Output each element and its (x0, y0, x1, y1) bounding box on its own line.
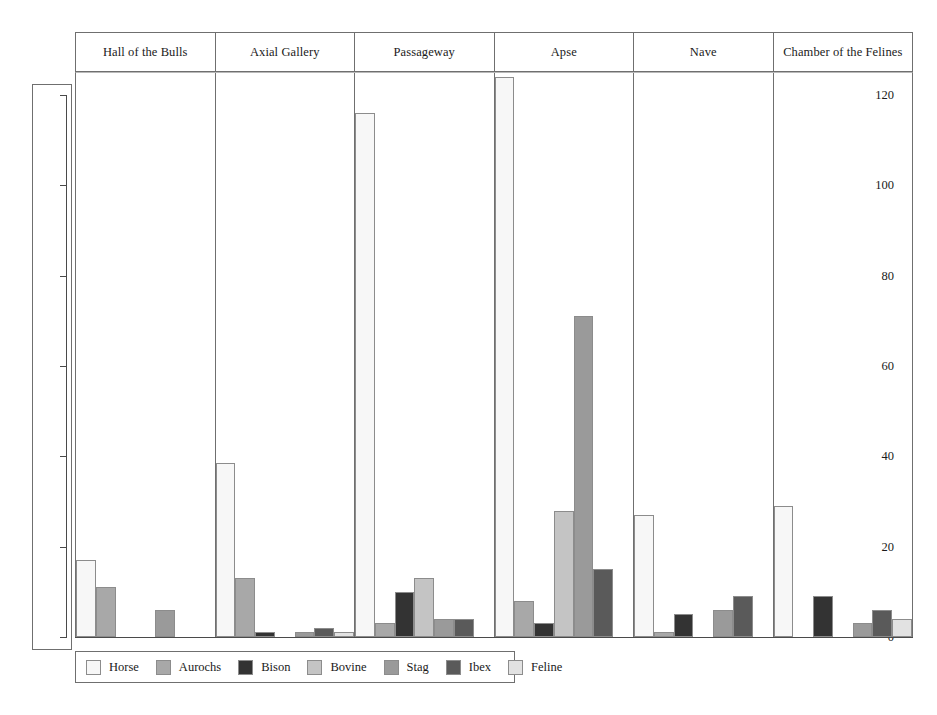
bar-aurochs[interactable] (514, 601, 534, 637)
panel-bars-1 (216, 96, 355, 637)
bar-feline[interactable] (892, 619, 912, 637)
legend-swatch-bovine (307, 660, 322, 675)
bar-slot-horse (76, 96, 96, 637)
panel-1 (216, 73, 356, 638)
bar-aurochs[interactable] (375, 623, 395, 637)
bar-slot-feline (474, 96, 494, 637)
legend-label-bison: Bison (261, 660, 290, 675)
bar-slot-ibex (454, 96, 474, 637)
y-axis-tick-100 (60, 185, 66, 186)
panel-header-1: Axial Gallery (216, 33, 356, 71)
bar-horse[interactable] (355, 113, 375, 637)
legend-item-stag[interactable]: Stag (384, 660, 429, 675)
bar-horse[interactable] (495, 77, 515, 637)
panel-bars-4 (634, 96, 773, 637)
bar-slot-bison (813, 96, 833, 637)
bar-slot-aurochs (96, 96, 116, 637)
legend-item-horse[interactable]: Horse (86, 660, 139, 675)
bar-ibex[interactable] (454, 619, 474, 637)
legend-swatch-ibex (446, 660, 461, 675)
legend-label-stag: Stag (407, 660, 429, 675)
panel-5 (774, 73, 913, 638)
bar-slot-horse (634, 96, 654, 637)
bar-slot-aurochs (375, 96, 395, 637)
bar-slot-stag (155, 96, 175, 637)
legend-swatch-aurochs (156, 660, 171, 675)
panel-4 (634, 73, 774, 638)
bar-slot-bovine (414, 96, 434, 637)
bar-slot-stag (574, 96, 594, 637)
legend-label-bovine: Bovine (330, 660, 366, 675)
bar-slot-feline (334, 96, 354, 637)
x-axis-baseline (75, 637, 913, 638)
bar-aurochs[interactable] (96, 587, 116, 637)
bar-stag[interactable] (853, 623, 873, 637)
legend-swatch-bison (238, 660, 253, 675)
legend-item-ibex[interactable]: Ibex (446, 660, 491, 675)
bar-slot-ibex (175, 96, 195, 637)
panel-header-2: Passageway (355, 33, 495, 71)
bar-ibex[interactable] (872, 610, 892, 637)
bar-stag[interactable] (574, 316, 594, 637)
bar-slot-aurochs (514, 96, 534, 637)
bar-bovine[interactable] (414, 578, 434, 637)
bar-bison[interactable] (534, 623, 554, 637)
bar-slot-bison (116, 96, 136, 637)
bar-ibex[interactable] (733, 596, 753, 637)
y-axis-tick-40 (60, 456, 66, 457)
bar-slot-bovine (275, 96, 295, 637)
legend-label-ibex: Ibex (469, 660, 491, 675)
bar-slot-horse (495, 96, 515, 637)
panel-bars-5 (774, 96, 913, 637)
bar-horse[interactable] (76, 560, 96, 637)
legend-item-feline[interactable]: Feline (508, 660, 562, 675)
panel-header-4: Nave (634, 33, 774, 71)
bar-aurochs[interactable] (235, 578, 255, 637)
bar-ibex[interactable] (593, 569, 613, 637)
bar-slot-ibex (314, 96, 334, 637)
bar-stag[interactable] (713, 610, 733, 637)
bar-slot-stag (713, 96, 733, 637)
legend-item-bovine[interactable]: Bovine (307, 660, 366, 675)
legend-swatch-stag (384, 660, 399, 675)
bar-slot-feline (753, 96, 773, 637)
bar-slot-horse (216, 96, 236, 637)
bar-slot-bison (674, 96, 694, 637)
bar-slot-aurochs (235, 96, 255, 637)
bar-slot-bovine (135, 96, 155, 637)
chart-root: Hall of the BullsAxial GalleryPassageway… (0, 0, 937, 715)
panel-bars-0 (76, 96, 215, 637)
y-axis-tick-0 (60, 637, 66, 638)
bar-horse[interactable] (634, 515, 654, 637)
bar-horse[interactable] (774, 506, 794, 637)
bar-slot-aurochs (654, 96, 674, 637)
bar-slot-bison (534, 96, 554, 637)
bar-slot-bovine (554, 96, 574, 637)
legend-label-horse: Horse (109, 660, 139, 675)
panel-bars-3 (495, 96, 634, 637)
bar-bovine[interactable] (554, 511, 574, 637)
chart-legend: HorseAurochsBisonBovineStagIbexFeline (75, 651, 515, 683)
legend-item-bison[interactable]: Bison (238, 660, 290, 675)
bar-bison[interactable] (813, 596, 833, 637)
bar-slot-stag (295, 96, 315, 637)
bar-slot-ibex (872, 96, 892, 637)
bar-slot-stag (434, 96, 454, 637)
bar-stag[interactable] (434, 619, 454, 637)
y-axis-tick-60 (60, 366, 66, 367)
y-axis-tick-20 (60, 547, 66, 548)
legend-swatch-feline (508, 660, 523, 675)
bar-bison[interactable] (395, 592, 415, 637)
bar-horse[interactable] (216, 463, 236, 637)
bar-stag[interactable] (155, 610, 175, 637)
bar-slot-horse (774, 96, 794, 637)
y-axis-tick-80 (60, 276, 66, 277)
bar-bison[interactable] (674, 614, 694, 637)
legend-item-aurochs[interactable]: Aurochs (156, 660, 221, 675)
legend-label-aurochs: Aurochs (179, 660, 221, 675)
bar-ibex[interactable] (314, 628, 334, 637)
panel-3 (495, 73, 635, 638)
bar-slot-feline (195, 96, 215, 637)
panel-0 (76, 73, 216, 638)
bar-slot-ibex (733, 96, 753, 637)
